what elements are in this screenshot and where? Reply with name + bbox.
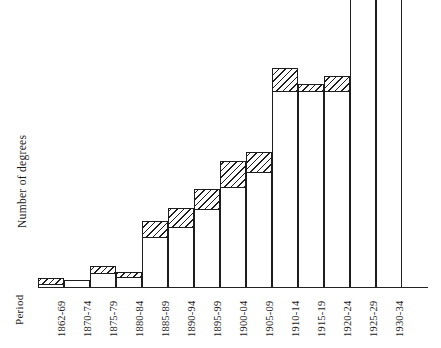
bar-hatched-segment <box>246 152 272 173</box>
bar-hatched-segment <box>168 208 194 228</box>
bar <box>142 221 168 288</box>
bar-hatched-segment <box>194 189 220 210</box>
x-tick-label: 1900-04 <box>238 301 249 337</box>
bar <box>220 161 246 288</box>
bar <box>350 0 376 288</box>
bar <box>298 84 324 288</box>
period-axis-label: Period <box>13 294 25 325</box>
x-tick-label: 1925-29 <box>368 301 379 337</box>
bar <box>168 208 194 288</box>
bar <box>272 68 298 288</box>
bar-hatched-segment <box>38 278 64 285</box>
x-tick-label: 1880-84 <box>134 301 145 337</box>
x-axis-baseline <box>38 287 428 288</box>
bar <box>246 152 272 288</box>
x-tick-label: 1870-74 <box>82 301 93 337</box>
bar-chart: Number of degrees Period 1862-691870-741… <box>0 0 441 348</box>
bar-hatched-segment <box>298 84 324 92</box>
x-tick-label: 1920-24 <box>342 301 353 337</box>
x-tick-label: 1875-79 <box>108 301 119 337</box>
bar <box>324 76 350 288</box>
x-tick-label: 1885-89 <box>160 301 171 337</box>
bar <box>376 0 402 288</box>
x-tick-label: 1930-34 <box>394 301 405 337</box>
bar-hatched-segment <box>142 221 168 238</box>
bar <box>90 266 116 288</box>
x-tick-label: 1862-69 <box>56 301 67 337</box>
y-axis-label: Number of degrees <box>16 135 28 228</box>
bar-hatched-segment <box>220 161 246 188</box>
x-tick-label: 1890-94 <box>186 301 197 337</box>
x-tick-label: 1895-99 <box>212 301 223 337</box>
bar <box>116 272 142 288</box>
bar-hatched-segment <box>324 76 350 92</box>
plot-area <box>38 0 427 288</box>
bar-hatched-segment <box>90 266 116 274</box>
bar-hatched-segment <box>272 68 298 92</box>
bar <box>194 189 220 288</box>
x-tick-label: 1910-14 <box>290 301 301 337</box>
x-tick-label: 1915-19 <box>316 301 327 337</box>
x-tick-label: 1905-09 <box>264 301 275 337</box>
bar-hatched-segment <box>116 272 142 278</box>
